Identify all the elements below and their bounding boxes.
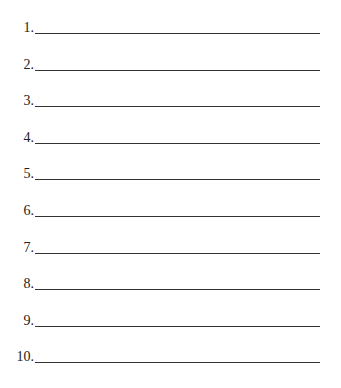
blank-line[interactable] [35, 33, 320, 34]
item-number: 1. [24, 21, 35, 35]
list-item: 3. [0, 90, 341, 110]
list-item: 1. [0, 17, 341, 37]
item-number: 8. [24, 277, 35, 291]
item-number: 5. [24, 167, 35, 181]
item-number: 7. [24, 241, 35, 255]
list-item: 6. [0, 200, 341, 220]
blank-line[interactable] [35, 362, 320, 363]
blank-line[interactable] [35, 253, 320, 254]
item-number: 9. [24, 314, 35, 328]
blank-line[interactable] [35, 326, 320, 327]
blank-line[interactable] [35, 289, 320, 290]
list-item: 8. [0, 273, 341, 293]
blank-line[interactable] [35, 216, 320, 217]
list-item: 10. [0, 346, 341, 366]
blank-line[interactable] [35, 143, 320, 144]
blank-line[interactable] [35, 70, 320, 71]
blank-line[interactable] [35, 179, 320, 180]
list-item: 9. [0, 310, 341, 330]
blank-line[interactable] [35, 106, 320, 107]
item-number: 3. [24, 94, 35, 108]
list-item: 7. [0, 237, 341, 257]
item-number: 10. [17, 350, 35, 364]
item-number: 6. [24, 204, 35, 218]
list-item: 2. [0, 54, 341, 74]
list-item: 5. [0, 163, 341, 183]
list-item: 4. [0, 127, 341, 147]
item-number: 4. [24, 131, 35, 145]
item-number: 2. [24, 58, 35, 72]
